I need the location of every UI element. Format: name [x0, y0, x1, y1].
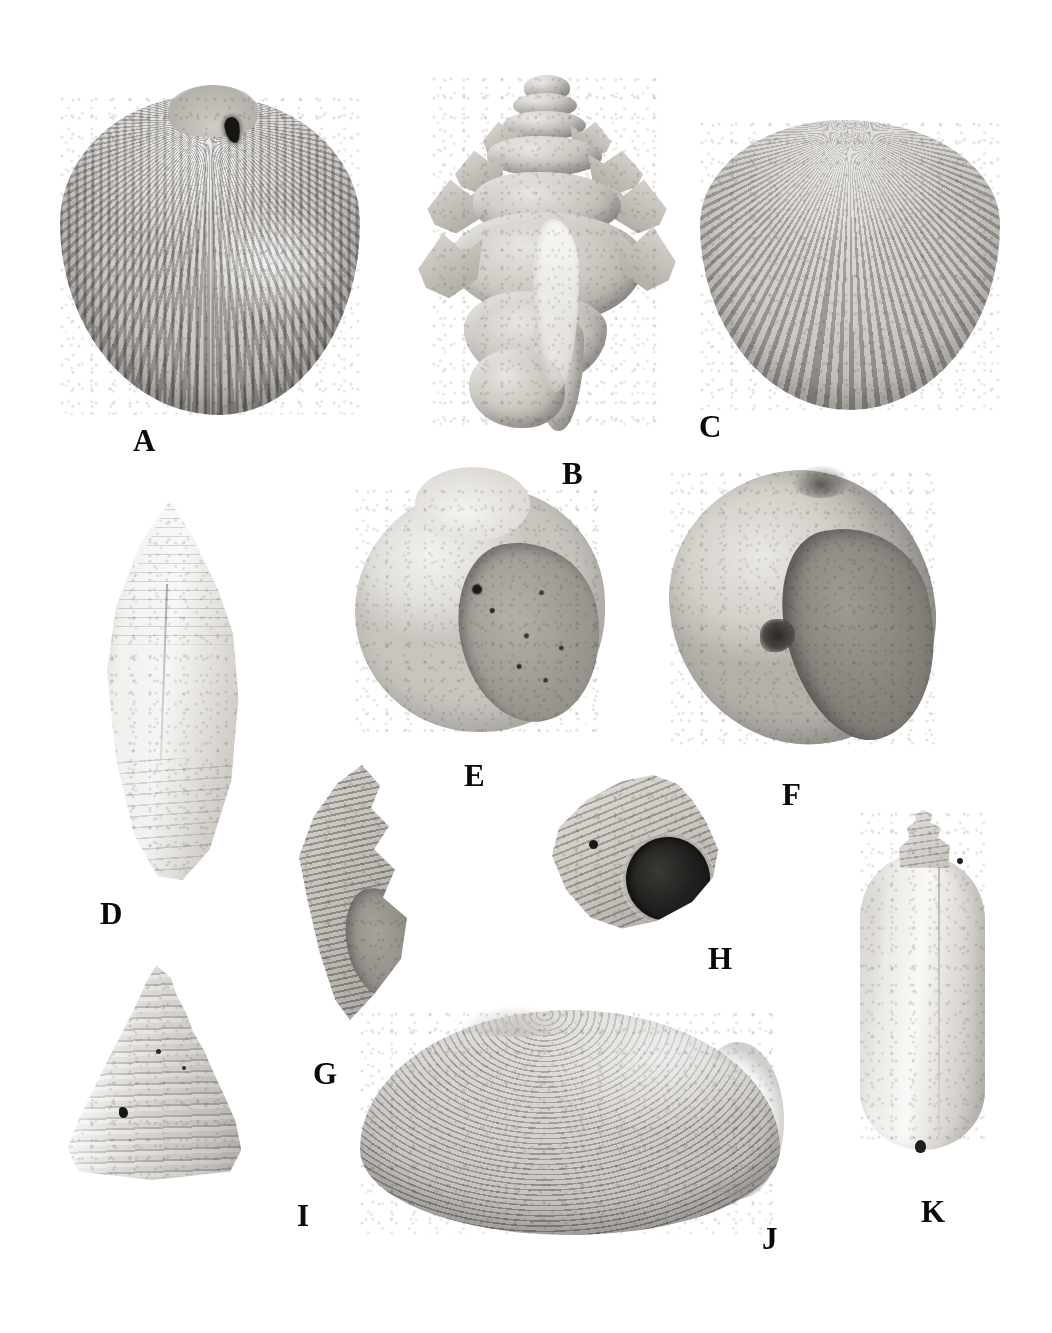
shell-grain-d	[80, 500, 260, 880]
shell-body-b	[432, 75, 662, 435]
specimen-j-smooth-venus-clam[interactable]	[360, 1010, 780, 1235]
specimen-label-k: K	[921, 1196, 946, 1227]
specimen-label-h: H	[708, 943, 733, 974]
specimen-label-b: B	[562, 458, 583, 489]
shell-grain-a	[60, 95, 360, 415]
shell-body-e	[355, 487, 605, 732]
shell-grain-e	[355, 487, 605, 732]
specimen-plate: A B	[0, 0, 1052, 1333]
specimen-f-large-moon-snail[interactable]	[670, 470, 935, 745]
specimen-label-i: I	[297, 1200, 310, 1231]
specimen-label-g: G	[313, 1058, 338, 1089]
shell-grain-g	[275, 765, 425, 1020]
specimen-label-c: C	[699, 411, 722, 442]
specimen-d-cone-shell-gastropod[interactable]	[80, 500, 260, 880]
specimen-g-ribbed-spindle-gastropod[interactable]	[275, 765, 425, 1020]
shell-grain-h	[545, 775, 720, 930]
specimen-i-conical-top-shell[interactable]	[60, 965, 245, 1180]
specimen-label-a: A	[133, 425, 156, 456]
specimen-a-ribbed-cockle-bivalve[interactable]	[60, 95, 360, 415]
specimen-e-globose-moon-snail[interactable]	[355, 487, 605, 732]
shell-body-g	[275, 765, 425, 1020]
shell-body-h	[545, 775, 720, 930]
shell-body-k	[860, 810, 985, 1150]
specimen-h-turban-snail[interactable]	[545, 775, 720, 930]
shell-body-d	[80, 500, 260, 880]
shell-grain-j	[360, 1010, 780, 1235]
shell-grain-k	[860, 810, 985, 1150]
shell-grain-c	[700, 120, 1000, 410]
specimen-b-spiny-murex-gastropod[interactable]	[432, 75, 662, 435]
specimen-label-f: F	[782, 779, 801, 810]
shell-body-i	[60, 965, 245, 1180]
shell-grain-b	[432, 75, 662, 435]
shell-body-j	[360, 1010, 780, 1235]
shell-body-c	[700, 120, 1000, 410]
specimen-c-round-ribbed-cockle-bivalve[interactable]	[700, 120, 1000, 410]
specimen-k-olive-shell-gastropod[interactable]	[860, 810, 985, 1150]
specimen-label-d: D	[100, 898, 123, 929]
shell-grain-i	[60, 965, 245, 1180]
shell-grain-f	[670, 470, 935, 745]
shell-body-a	[60, 95, 360, 415]
specimen-label-j: J	[762, 1223, 778, 1254]
specimen-label-e: E	[464, 760, 485, 791]
shell-body-f	[670, 470, 935, 745]
